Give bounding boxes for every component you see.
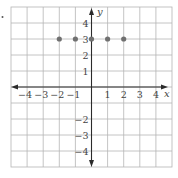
x-axis-label: x: [164, 88, 170, 99]
data-point: [57, 36, 62, 41]
x-tick-label: −1: [66, 89, 80, 100]
item-bullet: [2, 16, 4, 18]
x-tick-label: −3: [34, 89, 48, 100]
data-point: [121, 36, 126, 41]
data-point: [105, 36, 110, 41]
y-tick-label: 3: [82, 34, 88, 45]
x-tick-labels: −4−3−2−11234: [18, 89, 159, 100]
x-tick-label: 1: [105, 89, 111, 100]
y-axis-label: y: [96, 6, 103, 17]
data-point: [89, 36, 94, 41]
x-tick-label: 4: [153, 89, 159, 100]
y-tick-label: 2: [82, 50, 88, 61]
x-tick-label: 3: [137, 89, 143, 100]
y-axis-up-arrow-icon: [89, 8, 94, 15]
y-tick-label: −2: [74, 114, 88, 125]
coordinate-plane: y x −4−3−2−11234 4321−2−3−4: [0, 0, 178, 178]
y-tick-label: 1: [82, 66, 88, 77]
data-point: [73, 36, 78, 41]
x-tick-label: −4: [18, 89, 32, 100]
y-tick-label: −3: [74, 130, 88, 141]
x-tick-label: −2: [50, 89, 64, 100]
x-tick-label: 2: [121, 89, 127, 100]
y-tick-label: −4: [74, 146, 88, 157]
y-axis-down-arrow-icon: [89, 160, 94, 167]
y-tick-label: 4: [82, 18, 88, 29]
x-axis-left-arrow-icon: [11, 85, 18, 90]
